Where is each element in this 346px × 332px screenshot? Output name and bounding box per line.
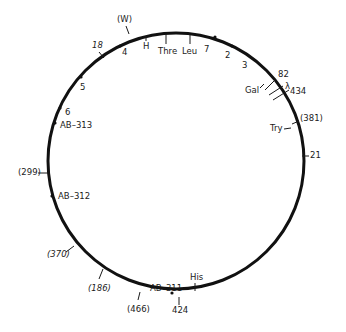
marker-label: AB–313 [60,120,92,130]
marker-dots [50,35,233,294]
marker-tick [284,128,291,129]
marker-label: 21 [310,150,321,160]
marker-label: (370) [47,249,70,259]
marker-tick [138,292,140,300]
marker-dot [58,106,61,109]
marker-tick [269,86,283,95]
marker-label: (466) [127,304,150,314]
marker-label: 5 [80,82,85,92]
chromosome-circle [48,33,304,289]
marker-label: His [190,272,204,282]
marker-tick [99,269,103,279]
marker-label: 424 [172,305,188,315]
marker-dot [50,194,53,197]
marker-label: (W) [117,14,132,24]
marker-label: 3 [242,60,247,70]
marker-label: H [143,41,149,51]
marker-dot [53,121,56,124]
marker-label: 6 [65,107,70,117]
marker-dot [79,75,82,78]
marker-label: 82 [278,69,289,79]
marker-label: Leu [182,46,197,56]
marker-label: Try [269,123,282,133]
marker-label: 434 [290,86,306,96]
marker-label: (381) [300,113,323,123]
marker-tick [260,84,264,88]
marker-label: Thre [157,46,177,56]
marker-dot [213,35,216,38]
marker-label: (186) [88,283,111,293]
marker-label: 18 [92,40,103,50]
marker-label: 7 [204,44,209,54]
marker-label: Gal [245,85,259,95]
marker-label: AB–311 [150,283,182,293]
marker-label: 2 [225,50,230,60]
marker-dot [230,44,233,47]
marker-label: (299) [18,167,41,177]
marker-tick [126,26,129,34]
marker-labels: (W)184HThreLeu72382λ434Gal(381)Try2156AB… [18,14,323,315]
marker-ticks [38,26,309,305]
marker-label: AB–312 [58,191,90,201]
circular-genetic-map: (W)184HThreLeu72382λ434Gal(381)Try2156AB… [0,0,346,332]
marker-tick [265,80,275,90]
marker-label: 4 [122,47,127,57]
